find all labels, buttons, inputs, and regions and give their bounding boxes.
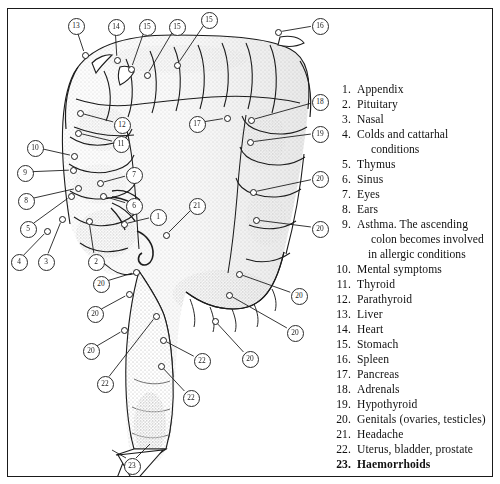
callout-marker-2[interactable]: 2 [88,254,105,271]
legend-item-number: 13. [332,307,357,322]
callout-marker-14[interactable]: 14 [108,19,125,36]
legend-item-number: 18. [332,382,357,397]
legend-item-number: 2. [332,97,357,112]
legend-item-number: 23. [332,457,357,472]
callout-marker-12[interactable]: 12 [114,117,131,134]
callout-marker-15[interactable]: 15 [139,19,156,36]
legend-item-label: Uterus, bladder, prostate [357,442,492,457]
callout-marker-7[interactable]: 7 [126,167,143,184]
callout-anchor-point [236,271,243,278]
legend-item-7: 7.Eyes [332,187,492,202]
legend-item-label: Colds and cattarhal [357,127,492,142]
callout-anchor-point [174,62,181,69]
legend-item-18: 18.Adrenals [332,382,492,397]
legend-item-number: 12. [332,292,357,307]
legend-item-number: 14. [332,322,357,337]
callout-marker-20[interactable]: 20 [87,306,104,323]
callout-anchor-point [163,232,170,239]
callout-anchor-point [44,228,51,235]
legend-item-label: Headache [357,427,492,442]
callout-marker-22[interactable]: 22 [194,353,211,370]
callout-anchor-point [70,167,77,174]
callout-marker-13[interactable]: 13 [68,18,85,35]
legend-item-label: Hypothyroid [357,397,492,412]
legend-item-13: 13.Liver [332,307,492,322]
callout-marker-8[interactable]: 8 [18,193,35,210]
legend-item-17: 17.Pancreas [332,367,492,382]
callout-marker-19[interactable]: 19 [312,126,329,143]
callout-anchor-point [71,153,78,160]
callout-anchor-point [224,115,231,122]
callout-anchor-point [248,117,255,124]
legend-item-2: 2.Pituitary [332,97,492,112]
callout-marker-15[interactable]: 15 [169,19,186,36]
legend-item-11: 11.Thyroid [332,277,492,292]
legend-item-label: Mental symptoms [357,262,492,277]
legend-item-label: Liver [357,307,492,322]
legend-item-label: Pancreas [357,367,492,382]
legend-item-label: Adrenals [357,382,492,397]
callout-marker-17[interactable]: 17 [189,116,206,133]
callout-marker-4[interactable]: 4 [11,254,28,271]
callout-marker-16[interactable]: 16 [312,18,329,35]
callout-marker-23[interactable]: 23 [124,458,141,475]
legend-item-label: Haemorrhoids [357,457,492,472]
callout-anchor-point [128,66,135,73]
legend-item-19: 19.Hypothyroid [332,397,492,412]
callout-marker-20[interactable]: 20 [242,351,259,368]
callout-anchor-point [250,189,257,196]
callout-marker-22[interactable]: 22 [97,376,114,393]
callout-anchor-point [68,193,75,200]
legend-item-number: 15. [332,337,357,352]
callout-marker-9[interactable]: 9 [17,165,34,182]
callout-marker-20[interactable]: 20 [287,325,304,342]
callout-marker-20[interactable]: 20 [312,171,329,188]
legend-item-label: Thyroid [357,277,492,292]
legend-item-14: 14.Heart [332,322,492,337]
callout-marker-20[interactable]: 20 [312,221,329,238]
callout-anchor-point [75,185,82,192]
legend-item-number: 4. [332,127,357,142]
legend-item-12: 12.Parathyroid [332,292,492,307]
callout-marker-1[interactable]: 1 [150,209,167,226]
legend-item-21: 21.Headache [332,427,492,442]
legend-item-label: Eyes [357,187,492,202]
legend-item-label: Appendix [357,82,492,97]
colon-drawing-svg [8,9,328,476]
legend-item-23: 23.Haemorrhoids [332,457,492,472]
callout-marker-3[interactable]: 3 [38,254,55,271]
legend-item-label: Ears [357,202,492,217]
callout-anchor-point [77,110,84,117]
legend-item-continuation: colon becomes involved [332,232,492,247]
callout-marker-10[interactable]: 10 [27,140,44,157]
callout-anchor-point [133,269,140,276]
legend-item-number: 17. [332,367,357,382]
callout-marker-6[interactable]: 6 [126,198,143,215]
callout-marker-11[interactable]: 11 [113,136,130,153]
callout-anchor-point [158,363,165,370]
legend-item-20: 20.Genitals (ovaries, testicles) [332,412,492,427]
callout-anchor-point [82,52,89,59]
callout-marker-21[interactable]: 21 [189,198,206,215]
callout-marker-20[interactable]: 20 [291,288,308,305]
callout-marker-22[interactable]: 22 [183,390,200,407]
callout-anchor-point [121,221,128,228]
callout-marker-20[interactable]: 20 [93,276,110,293]
legend-item-label: Heart [357,322,492,337]
callout-marker-18[interactable]: 18 [312,94,329,111]
legend-item-number: 20. [332,412,357,427]
callout-marker-5[interactable]: 5 [20,221,37,238]
callout-marker-20[interactable]: 20 [83,343,100,360]
legend-item-label: Sinus [357,172,492,187]
legend-item-9: 9.Asthma. The ascending [332,217,492,232]
callout-anchor-point [59,216,66,223]
legend-item-label: Asthma. The ascending [357,217,492,232]
legend-item-label: Genitals (ovaries, testicles) [357,412,492,427]
callout-marker-15[interactable]: 15 [201,12,218,29]
callout-anchor-point [253,217,260,224]
legend-item-number: 5. [332,157,357,172]
callout-anchor-point [247,139,254,146]
legend-item-label: Spleen [357,352,492,367]
legend-item-continuation: in allergic conditions [332,247,492,262]
callout-anchor-point [160,337,167,344]
